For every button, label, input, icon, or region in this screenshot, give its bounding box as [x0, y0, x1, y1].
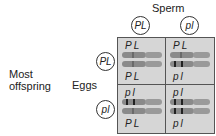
chromosome-icon: [122, 108, 162, 114]
cell-bottom-allele: PL: [125, 118, 141, 129]
chromosome-icon: [122, 52, 162, 58]
eggs-label: Eggs: [72, 79, 97, 91]
cell-top-allele: PL: [125, 40, 141, 51]
egg-allele-PL: PL: [96, 52, 115, 71]
sperm-allele-PL: PL: [131, 16, 150, 35]
punnett-cell-PL-PL: PL PL: [118, 38, 165, 84]
chromosome-icon: [170, 52, 210, 58]
cell-top-allele: PL: [173, 40, 189, 51]
most-offspring-label: Most offspring: [9, 68, 59, 92]
cell-top-allele: pl: [173, 87, 185, 98]
chromosome-icon: [170, 99, 210, 105]
punnett-cell-PL-pl: PL pl: [166, 38, 213, 84]
punnett-cell-pl-pl: pl pl: [166, 85, 213, 131]
cell-bottom-allele: PL: [125, 71, 141, 82]
punnett-cell-pl-PL: pl PL: [118, 85, 165, 131]
cell-bottom-allele: pl: [173, 118, 185, 129]
most-offspring-text: Most offspring: [9, 68, 51, 92]
chromosome-icon: [122, 99, 162, 105]
cell-top-allele: pl: [125, 87, 137, 98]
chromosome-icon: [122, 61, 162, 67]
chromosome-icon: [170, 108, 210, 114]
sperm-label: Sperm: [152, 2, 184, 14]
punnett-square: PL PL PL pl pl: [117, 37, 215, 134]
cell-bottom-allele: pl: [173, 71, 185, 82]
sperm-allele-pl: pl: [180, 16, 199, 35]
egg-allele-pl: pl: [96, 100, 115, 119]
chromosome-icon: [170, 61, 210, 67]
